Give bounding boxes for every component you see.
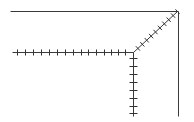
- axes-group: [13, 9, 180, 116]
- axes-diagram: [0, 0, 194, 122]
